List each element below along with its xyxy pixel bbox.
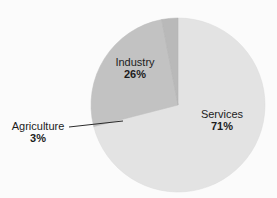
pie-chart-figure: Industry 26% Services 71% Agriculture 3% [0,0,277,198]
pie-label-services-name: Services [186,108,258,120]
pie-label-agriculture: Agriculture 3% [6,120,70,144]
pie-chart-svg [0,0,277,198]
pie-label-industry: Industry 26% [96,56,174,80]
pie-label-industry-name: Industry [96,56,174,68]
pie-label-industry-value: 26% [96,68,174,80]
pie-label-agriculture-name: Agriculture [6,120,70,132]
pie-label-services-value: 71% [186,120,258,132]
pie-label-agriculture-value: 3% [6,132,70,144]
pie-label-services: Services 71% [186,108,258,132]
